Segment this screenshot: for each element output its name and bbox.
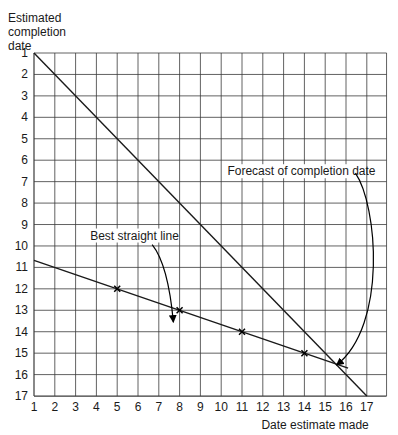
annotation-forecast: Forecast of completion date [227, 164, 375, 178]
y-tick-label: 14 [15, 325, 29, 339]
x-tick-label: 14 [298, 400, 312, 414]
y-tick-label: 5 [21, 132, 28, 146]
x-tick-label: 9 [197, 400, 204, 414]
y-tick-label: 10 [15, 239, 29, 253]
x-tick-label: 4 [93, 400, 100, 414]
y-tick-label: 3 [21, 89, 28, 103]
x-tick-label: 13 [277, 400, 291, 414]
x-tick-label: 17 [360, 400, 374, 414]
series-line [34, 260, 348, 368]
y-tick-label: 2 [21, 67, 28, 81]
grid [34, 53, 387, 396]
y-tick-label: 12 [15, 282, 29, 296]
y-tick-label: 1 [21, 46, 28, 60]
x-tick-label: 1 [31, 400, 38, 414]
x-tick-label: 11 [236, 400, 249, 414]
annotations: Best straight lineForecast of completion… [88, 164, 376, 365]
annotation-best-straight-line: Best straight line [90, 229, 179, 243]
arrow-forecast [337, 173, 374, 365]
x-tick-label: 10 [215, 400, 229, 414]
y-tick-label: 15 [15, 346, 29, 360]
x-tick-label: 8 [176, 400, 183, 414]
y-tick-label: 9 [21, 218, 28, 232]
x-axis-title: Date estimate made [261, 418, 369, 432]
y-tick-labels: 1234567891011121314151617 [15, 46, 29, 403]
x-tick-label: 12 [256, 400, 270, 414]
y-tick-label: 16 [15, 368, 29, 382]
x-tick-label: 2 [51, 400, 58, 414]
y-tick-label: 7 [21, 175, 28, 189]
x-tick-label: 5 [114, 400, 121, 414]
y-tick-label: 17 [15, 389, 29, 403]
x-tick-label: 15 [319, 400, 333, 414]
y-tick-label: 13 [15, 303, 29, 317]
x-tick-label: 3 [72, 400, 79, 414]
x-tick-label: 7 [155, 400, 162, 414]
line-chart: 1234567891011121314151617 12345678910111… [0, 0, 398, 435]
y-tick-label: 11 [16, 260, 29, 274]
y-tick-label: 8 [21, 196, 28, 210]
y-tick-label: 4 [21, 110, 28, 124]
x-tick-label: 16 [339, 400, 353, 414]
y-tick-label: 6 [21, 153, 28, 167]
x-tick-label: 6 [135, 400, 142, 414]
x-tick-labels: 1234567891011121314151617 [31, 400, 374, 414]
